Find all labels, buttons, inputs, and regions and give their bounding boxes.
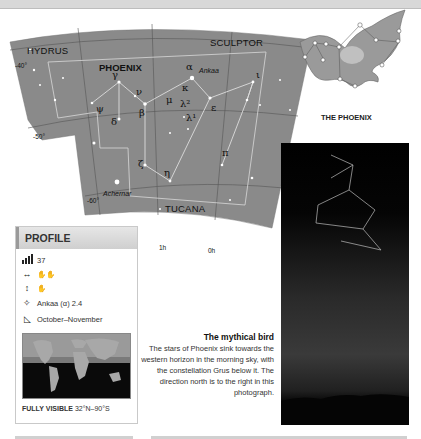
greek-label: λ¹	[186, 112, 196, 123]
profile-value: ✋	[37, 284, 46, 293]
greek-label: ι	[256, 69, 260, 80]
visibility-world-map	[22, 333, 131, 399]
night-sky-photo	[281, 143, 409, 425]
visibility-range: 32°N–90°S	[75, 405, 110, 412]
phoenix-illustration	[300, 10, 405, 88]
greek-label: α	[186, 61, 193, 72]
profile-value: Ankaa (α) 2.4	[37, 299, 82, 308]
continents	[23, 334, 130, 398]
declination-label: -50°	[33, 133, 45, 140]
height-icon: ↕	[21, 283, 33, 293]
greek-label: π	[222, 147, 229, 158]
profile-row-size-rank: 37	[21, 254, 45, 266]
greek-label: ζ	[138, 158, 143, 169]
profile-value: October–November	[37, 315, 102, 324]
constellation-label-hydrus: HYDRUS	[27, 45, 68, 56]
greek-label: δ	[111, 116, 117, 127]
profile-row-brightest-star: ✧ Ankaa (α) 2.4	[21, 297, 82, 309]
caption-body: The stars of Phoenix sink towards the we…	[140, 343, 274, 398]
greek-label: ε	[211, 102, 216, 113]
constellation-label-phoenix: PHOENIX	[99, 62, 142, 73]
greek-label: μ	[166, 94, 173, 105]
best-viewing-icon: ◺	[21, 314, 33, 324]
visibility-text: FULLY VISIBLE 32°N–90°S	[22, 405, 110, 412]
declination-label: -60°	[87, 197, 99, 204]
photo-caption: The mythical bird The stars of Phoenix s…	[140, 332, 274, 398]
profile-header: PROFILE	[16, 227, 137, 249]
profile-value: 37	[37, 256, 45, 265]
caption-title: The mythical bird	[140, 332, 274, 343]
greek-label: κ	[182, 82, 188, 93]
grus-asterism	[281, 143, 409, 425]
profile-row-best-viewing: ◺ October–November	[21, 313, 102, 325]
ra-label: 1h	[159, 244, 166, 251]
declination-label: -40°	[15, 62, 27, 69]
star-name-ankaa: Ankaa	[199, 67, 219, 74]
profile-row-width: ↔ ✋✋	[21, 268, 55, 280]
visibility-label: FULLY VISIBLE	[22, 405, 73, 412]
profile-row-height: ↕ ✋	[21, 282, 46, 294]
greek-label: β	[139, 107, 145, 118]
greek-label: λ²	[180, 98, 190, 109]
brightest-star-icon: ✧	[21, 298, 33, 308]
size-rank-icon	[21, 254, 33, 266]
greek-label: ν	[136, 86, 142, 97]
greek-label: ψ	[96, 103, 104, 114]
width-icon: ↔	[21, 269, 33, 279]
constellation-label-tucana: TUCANA	[165, 203, 205, 214]
profile-heading: PROFILE	[25, 232, 71, 244]
profile-panel: PROFILE 37 ↔ ✋✋ ↕ ✋ ✧ Ankaa (α) 2.4 ◺ Oc…	[15, 226, 138, 424]
greek-label: η	[164, 167, 170, 178]
profile-value: ✋✋	[37, 270, 55, 279]
greek-label: γ	[112, 69, 118, 80]
illustration-title: THE PHOENIX	[321, 113, 372, 122]
ra-label: 0h	[208, 247, 215, 254]
constellation-label-sculptor: SCULPTOR	[210, 37, 263, 48]
star-name-achernar: Achernar	[103, 190, 131, 197]
